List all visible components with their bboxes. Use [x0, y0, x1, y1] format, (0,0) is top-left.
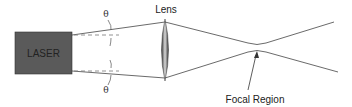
angle-bottom-label: θ [103, 85, 108, 95]
lens: Lens [155, 4, 177, 81]
laser-source: LASER [15, 32, 72, 74]
laser-label: LASER [27, 48, 60, 59]
diverging-beam [72, 22, 165, 78]
converging-beam [165, 22, 338, 78]
lens-label: Lens [155, 4, 177, 15]
angle-top-label: θ [103, 9, 108, 19]
focal-region-label: Focal Region [226, 94, 285, 105]
focal-arrow [248, 51, 259, 90]
laser-focus-diagram: LASER θ θ Lens Focal Region [0, 0, 352, 107]
reference-axis-lines [74, 35, 119, 71]
